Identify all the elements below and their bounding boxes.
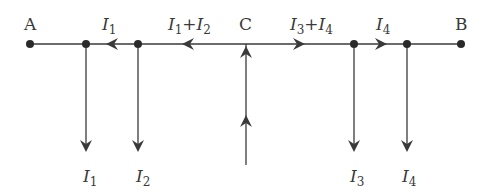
junction-dot-i2: [134, 40, 142, 48]
current-diagram: A C B I1 I1+I2 I3+I4 I4 I1 I2 I3 I4: [0, 0, 493, 195]
junction-dot-i3: [350, 40, 358, 48]
segment-label-i1-plus-i2: I1+I2: [167, 14, 211, 37]
junction-dot-i1: [82, 40, 90, 48]
branch-label-i2: I2: [135, 166, 150, 189]
segment-label-i1: I1: [101, 14, 116, 37]
node-c-label: C: [239, 14, 252, 34]
node-a-label: A: [23, 14, 37, 34]
branch-label-i1: I1: [82, 166, 97, 189]
segment-label-i4: I4: [375, 14, 391, 37]
segment-label-i3-plus-i4: I3+I4: [289, 14, 333, 37]
node-a-dot: [26, 40, 34, 48]
branch-label-i4: I4: [401, 166, 417, 189]
branch-label-i3: I3: [349, 166, 364, 189]
junction-dot-i4: [403, 40, 411, 48]
node-b-dot: [457, 40, 465, 48]
node-b-label: B: [455, 14, 468, 34]
